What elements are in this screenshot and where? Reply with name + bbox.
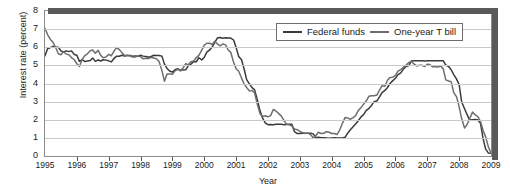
x-tick-mark: [459, 157, 460, 161]
gridline: [45, 102, 491, 103]
x-tick-label: 2005: [347, 160, 381, 170]
gridline: [45, 84, 491, 85]
legend-swatch-federal-funds: [283, 31, 302, 33]
legend-label-one-year-t-bill: One-year T bill: [394, 26, 456, 37]
x-tick-label: 2009: [474, 160, 508, 170]
right-frame-band: [492, 8, 498, 160]
x-tick-mark: [204, 157, 205, 161]
top-frame-band: [48, 8, 494, 14]
x-tick-label: 2006: [378, 160, 412, 170]
gridline: [45, 120, 491, 121]
x-tick-label: 2003: [283, 160, 317, 170]
x-tick-mark: [236, 157, 237, 161]
gridline: [45, 65, 491, 66]
x-tick-label: 1997: [92, 160, 126, 170]
x-tick-mark: [364, 157, 365, 161]
x-tick-mark: [332, 157, 333, 161]
y-tick-label: 5: [0, 59, 38, 69]
y-tick-label: 0: [0, 150, 38, 160]
x-tick-mark: [109, 157, 110, 161]
x-tick-mark: [77, 157, 78, 161]
x-tick-label: 2002: [251, 160, 285, 170]
legend-label-federal-funds: Federal funds: [307, 26, 365, 37]
y-tick-label: 2: [0, 114, 38, 124]
x-tick-mark: [300, 157, 301, 161]
x-tick-label: 2000: [187, 160, 221, 170]
x-tick-label: 1996: [60, 160, 94, 170]
y-tick-label: 3: [0, 96, 38, 106]
x-tick-label: 2004: [315, 160, 349, 170]
x-tick-label: 1995: [28, 160, 62, 170]
x-tick-mark: [172, 157, 173, 161]
x-tick-label: 2007: [410, 160, 444, 170]
y-tick-label: 1: [0, 132, 38, 142]
y-tick-label: 6: [0, 41, 38, 51]
x-tick-label: 2001: [219, 160, 253, 170]
gridline: [45, 138, 491, 139]
gridline: [45, 47, 491, 48]
x-tick-mark: [141, 157, 142, 161]
y-tick-label: 8: [0, 5, 38, 15]
x-axis-title: Year: [44, 176, 492, 186]
interest-rate-line-chart: Interest rate (percent) Year 012345678 1…: [0, 0, 510, 193]
y-tick-label: 4: [0, 78, 38, 88]
legend-swatch-one-year-t-bill: [370, 31, 389, 33]
x-tick-mark: [268, 157, 269, 161]
x-tick-label: 1999: [155, 160, 189, 170]
chart-legend: Federal funds One-year T bill: [276, 23, 463, 41]
x-tick-label: 1998: [124, 160, 158, 170]
x-tick-mark: [427, 157, 428, 161]
x-tick-label: 2008: [442, 160, 476, 170]
y-tick-label: 7: [0, 23, 38, 33]
x-tick-mark: [395, 157, 396, 161]
